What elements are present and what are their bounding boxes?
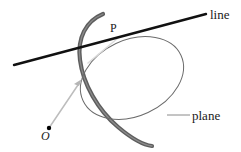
geometry-figure <box>0 0 241 152</box>
ray-from-point-o <box>49 82 80 128</box>
label-point-o: O <box>41 130 50 142</box>
figure-canvas: line plane P O <box>0 0 241 152</box>
label-plane: plane <box>192 109 220 122</box>
label-line: line <box>210 8 230 21</box>
label-point-p: P <box>110 22 117 34</box>
